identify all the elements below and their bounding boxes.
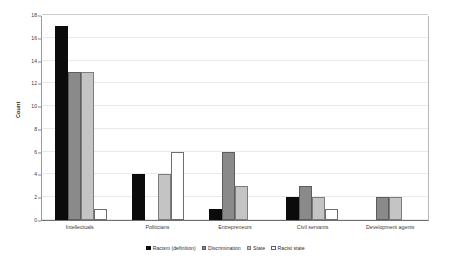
- bar: [81, 72, 94, 220]
- legend-label: Discrimination: [208, 245, 241, 251]
- bar-group: [196, 16, 273, 220]
- bar-group: [351, 16, 428, 220]
- bar-group: [119, 16, 196, 220]
- legend-item[interactable]: State: [247, 245, 266, 251]
- x-tick-label: Development agents: [351, 224, 429, 230]
- legend-item[interactable]: Racism (definition): [146, 245, 195, 251]
- bar: [68, 72, 81, 220]
- bar-group: [274, 16, 351, 220]
- legend-swatch-icon: [146, 246, 150, 250]
- y-axis-ticks: 024681012141618: [0, 16, 41, 221]
- bar: [299, 186, 312, 220]
- y-tick-label: 6: [34, 150, 37, 155]
- legend-swatch-icon: [247, 246, 251, 250]
- bar-groups: [42, 16, 428, 220]
- x-tick-label: Entrepreneurs: [196, 224, 274, 230]
- legend-item[interactable]: Racist state: [271, 245, 305, 251]
- bar: [132, 174, 145, 220]
- x-tick-label: Civil servants: [274, 224, 352, 230]
- bar-group: [42, 16, 119, 220]
- bar: [55, 26, 68, 220]
- bar: [286, 197, 299, 220]
- y-tick-label: 14: [31, 59, 37, 64]
- legend-swatch-icon: [202, 246, 206, 250]
- y-tick-label: 0: [34, 218, 37, 223]
- bar: [94, 209, 107, 220]
- bar-chart-figure: Count 024681012141618 IntellectualsPolit…: [0, 0, 451, 266]
- legend-item[interactable]: Discrimination: [202, 245, 241, 251]
- y-tick-label: 8: [34, 127, 37, 132]
- y-tick-label: 18: [31, 13, 37, 18]
- x-tick-label: Politicians: [119, 224, 197, 230]
- y-tick-label: 4: [34, 173, 37, 178]
- bar: [325, 209, 338, 220]
- chart-legend: Racism (definition)DiscriminationStateRa…: [0, 245, 451, 251]
- bar: [312, 197, 325, 220]
- y-tick-label: 10: [31, 105, 37, 110]
- legend-label: Racist state: [278, 245, 305, 251]
- x-axis-labels: IntellectualsPoliticiansEntrepreneursCiv…: [41, 224, 429, 230]
- bar: [376, 197, 389, 220]
- bar: [235, 186, 248, 220]
- bar: [389, 197, 402, 220]
- y-tick-label: 16: [31, 36, 37, 41]
- bar: [209, 209, 222, 220]
- plot-area: [41, 16, 429, 221]
- legend-label: Racism (definition): [153, 245, 196, 251]
- y-tick-label: 12: [31, 82, 37, 87]
- legend-label: State: [253, 245, 265, 251]
- bar: [222, 152, 235, 220]
- gridline: [42, 14, 428, 15]
- x-tick-label: Intellectuals: [41, 224, 119, 230]
- y-tick-label: 2: [34, 196, 37, 201]
- legend-swatch-icon: [271, 246, 275, 250]
- bar: [158, 174, 171, 220]
- bar: [171, 152, 184, 220]
